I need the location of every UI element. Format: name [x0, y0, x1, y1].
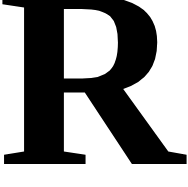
letter-r: R — [0, 0, 184, 187]
